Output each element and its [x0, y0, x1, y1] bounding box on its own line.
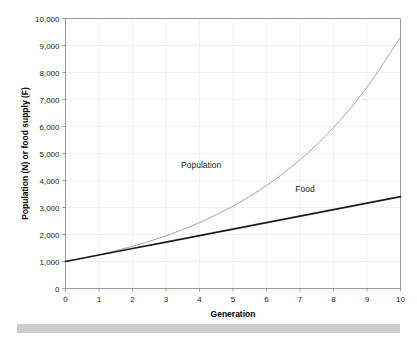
tick-label-y: 7,000 — [39, 96, 60, 105]
tick-label-x: 2 — [130, 295, 135, 304]
y-axis-title: Population (N) or food supply (F) — [20, 87, 30, 220]
page-scan-band — [17, 324, 400, 333]
tick-label-y: 10,000 — [35, 15, 60, 24]
tick-label-x: 6 — [264, 295, 269, 304]
tick-label-y: 6,000 — [39, 123, 60, 132]
tick-label-y: 9,000 — [39, 42, 60, 51]
x-axis-title: Generation — [211, 309, 256, 319]
tick-label-y: 4,000 — [39, 177, 60, 186]
figure-canvas: 01,0002,0003,0004,0005,0006,0007,0008,00… — [0, 0, 417, 342]
tick-label-y: 1,000 — [39, 258, 60, 267]
tick-label-x: 4 — [197, 295, 202, 304]
tick-label-x: 8 — [331, 295, 336, 304]
x-axis-tick-labels: 012345678910 — [63, 295, 405, 304]
tick-label-y: 0 — [55, 285, 60, 294]
tick-label-x: 3 — [164, 295, 169, 304]
tick-label-x: 5 — [231, 295, 236, 304]
tick-label-y: 2,000 — [39, 231, 60, 240]
tick-label-x: 7 — [298, 295, 303, 304]
food-series-label: Food — [295, 184, 315, 194]
tick-label-x: 9 — [365, 295, 370, 304]
population-series-label: Population — [181, 160, 221, 170]
tick-label-y: 3,000 — [39, 204, 60, 213]
tick-label-y: 5,000 — [39, 150, 60, 159]
tick-label-y: 8,000 — [39, 69, 60, 78]
population-food-line-chart: 01,0002,0003,0004,0005,0006,0007,0008,00… — [0, 0, 417, 342]
y-axis-tick-labels: 01,0002,0003,0004,0005,0006,0007,0008,00… — [35, 15, 60, 294]
tick-label-x: 1 — [97, 295, 102, 304]
tick-label-x: 0 — [63, 295, 68, 304]
tick-label-x: 10 — [396, 295, 405, 304]
